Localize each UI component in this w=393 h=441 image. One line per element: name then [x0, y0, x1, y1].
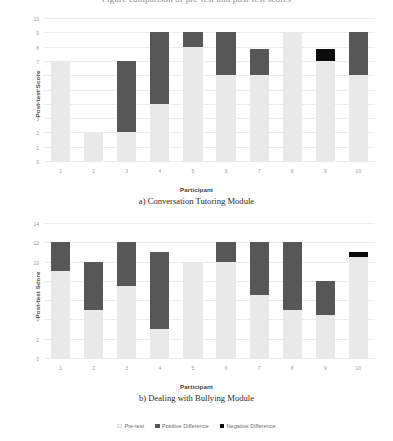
bar-segment-positive[interactable]	[216, 242, 235, 261]
bar-slot[interactable]: 6	[209, 223, 242, 358]
bar-stack[interactable]	[250, 223, 269, 358]
bar-segment-pretest[interactable]	[183, 262, 202, 358]
legend-label: Negative Difference	[227, 423, 276, 429]
bar-stack[interactable]	[51, 223, 70, 358]
bar-stack[interactable]	[349, 223, 368, 358]
x-axis-tick: 3	[110, 365, 143, 371]
bar-stack[interactable]	[216, 18, 235, 161]
x-axis-tick: 4	[143, 365, 176, 371]
bar-segment-pretest[interactable]	[150, 329, 169, 358]
bar-stack[interactable]	[150, 223, 169, 358]
x-axis-tick: 7	[243, 168, 276, 174]
y-axis-tick: 8	[36, 279, 44, 285]
bar-slot[interactable]: 8	[276, 223, 309, 358]
bar-segment-positive[interactable]	[349, 32, 368, 75]
bar-segment-pretest[interactable]	[150, 104, 169, 161]
legend-label: Positive Difference	[162, 423, 209, 429]
bar-segment-pretest[interactable]	[84, 132, 103, 161]
bar-slot[interactable]: 10	[342, 223, 375, 358]
bar-segment-positive[interactable]	[51, 242, 70, 271]
bar-segment-positive[interactable]	[283, 242, 302, 310]
bar-segment-positive[interactable]	[250, 242, 269, 295]
bar-slot[interactable]: 5	[176, 223, 209, 358]
bar-slot[interactable]: 1	[44, 18, 77, 161]
bar-segment-pretest[interactable]	[250, 75, 269, 161]
bar-slot[interactable]: 7	[243, 223, 276, 358]
bar-stack[interactable]	[117, 223, 136, 358]
bar-stack[interactable]	[183, 18, 202, 161]
bar-stack[interactable]	[183, 223, 202, 358]
bar-stack[interactable]	[349, 18, 368, 161]
bar-segment-positive[interactable]	[150, 32, 169, 104]
bar-segment-pretest[interactable]	[216, 262, 235, 358]
bar-stack[interactable]	[316, 223, 335, 358]
bar-stack[interactable]	[283, 18, 302, 161]
bar-slot[interactable]: 5	[176, 18, 209, 161]
x-axis-tick: 8	[276, 365, 309, 371]
bar-stack[interactable]	[250, 18, 269, 161]
bar-stack[interactable]	[216, 223, 235, 358]
bar-segment-positive[interactable]	[183, 32, 202, 46]
bar-segment-pretest[interactable]	[216, 75, 235, 161]
bar-segment-pretest[interactable]	[250, 295, 269, 358]
bar-slot[interactable]: 2	[77, 18, 110, 161]
legend-label: Pre-test	[124, 423, 144, 429]
bar-stack[interactable]	[84, 18, 103, 161]
bar-stack[interactable]	[150, 18, 169, 161]
x-axis-tick: 1	[44, 365, 77, 371]
bar-stack[interactable]	[316, 18, 335, 161]
bar-segment-positive[interactable]	[150, 252, 169, 329]
plot-area-a: 012345678910 12345678910	[44, 18, 375, 162]
bar-segment-positive[interactable]	[316, 281, 335, 315]
bar-slot[interactable]: 4	[143, 223, 176, 358]
x-axis-tick: 2	[77, 365, 110, 371]
bar-slot[interactable]: 9	[309, 18, 342, 161]
bar-stack[interactable]	[51, 18, 70, 161]
chart-panel-a: Post-test Score 012345678910 12345678910…	[0, 10, 393, 215]
legend-item: Positive Difference	[155, 423, 209, 429]
legend-swatch-pre	[117, 424, 122, 429]
bar-slot[interactable]: 6	[209, 18, 242, 161]
bar-slot[interactable]: 9	[309, 223, 342, 358]
bar-group-a: 12345678910	[44, 18, 375, 161]
bar-segment-positive[interactable]	[250, 49, 269, 75]
bar-segment-pretest[interactable]	[283, 310, 302, 358]
bar-stack[interactable]	[117, 18, 136, 161]
bar-slot[interactable]: 2	[77, 223, 110, 358]
bar-segment-pretest[interactable]	[183, 47, 202, 161]
bar-stack[interactable]	[84, 223, 103, 358]
bar-segment-pretest[interactable]	[316, 315, 335, 358]
legend-swatch-neg	[220, 424, 225, 429]
bar-segment-positive[interactable]	[216, 32, 235, 75]
bar-segment-positive[interactable]	[117, 61, 136, 133]
bar-slot[interactable]: 8	[276, 18, 309, 161]
bar-segment-pretest[interactable]	[349, 75, 368, 161]
figure-page: Figure comparison of pre-test and post-t…	[0, 0, 393, 441]
bar-segment-pretest[interactable]	[316, 61, 335, 161]
y-axis-tick: 0	[36, 356, 44, 362]
bar-segment-negative[interactable]	[316, 49, 335, 60]
bar-segment-pretest[interactable]	[51, 271, 70, 358]
bar-segment-positive[interactable]	[117, 242, 136, 285]
bar-group-b: 12345678910	[44, 223, 375, 358]
bar-segment-pretest[interactable]	[349, 257, 368, 358]
bar-slot[interactable]: 3	[110, 18, 143, 161]
bar-segment-pretest[interactable]	[117, 132, 136, 161]
y-axis-tick: 8	[36, 45, 44, 51]
bar-segment-pretest[interactable]	[51, 61, 70, 161]
bar-segment-pretest[interactable]	[84, 310, 103, 358]
x-axis-tick: 1	[44, 168, 77, 174]
bar-slot[interactable]: 3	[110, 223, 143, 358]
x-axis-tick: 7	[243, 365, 276, 371]
x-axis-tick: 5	[176, 365, 209, 371]
bar-slot[interactable]: 7	[243, 18, 276, 161]
bar-stack[interactable]	[283, 223, 302, 358]
bar-slot[interactable]: 10	[342, 18, 375, 161]
bar-segment-pretest[interactable]	[283, 32, 302, 161]
clipped-header-text: Figure comparison of pre-test and post-t…	[0, 0, 393, 7]
bar-segment-positive[interactable]	[84, 262, 103, 310]
bar-slot[interactable]: 1	[44, 223, 77, 358]
y-axis-tick: 2	[36, 337, 44, 343]
bar-slot[interactable]: 4	[143, 18, 176, 161]
bar-segment-pretest[interactable]	[117, 286, 136, 358]
